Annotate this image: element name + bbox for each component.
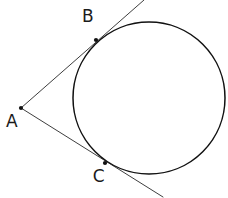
geometry-figure: A B C — [0, 0, 228, 198]
point-label-a: A — [6, 111, 18, 131]
geometry-canvas: A B C — [0, 0, 228, 198]
point-label-b: B — [82, 6, 94, 26]
point-label-c: C — [93, 166, 105, 186]
point-c-dot — [103, 161, 107, 165]
circle-shape — [73, 22, 225, 174]
point-a-dot — [19, 106, 23, 110]
point-b-dot — [94, 38, 98, 42]
